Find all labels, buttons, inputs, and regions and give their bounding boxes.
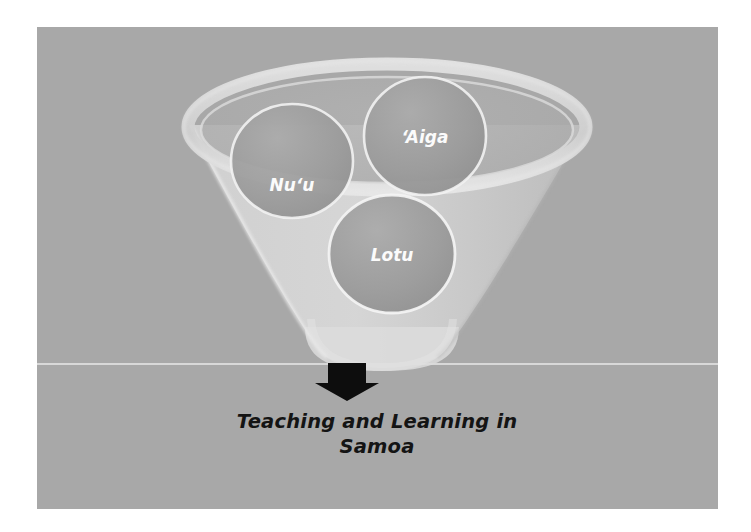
slide-plate: Nu‘u ‘Aiga Lotu [37, 27, 718, 509]
sphere-aiga[interactable]: ‘Aiga [364, 77, 486, 195]
sphere-nuu[interactable]: Nu‘u [231, 104, 353, 218]
caption-line-1: Teaching and Learning in [167, 410, 587, 435]
caption-line-2: Samoa [167, 435, 587, 460]
figure-canvas: Nu‘u ‘Aiga Lotu [0, 0, 751, 532]
sphere-lotu-label: Lotu [371, 245, 414, 265]
sphere-lotu[interactable]: Lotu [329, 195, 455, 313]
caption: Teaching and Learning in Samoa [167, 410, 587, 460]
sphere-aiga-label: ‘Aiga [402, 127, 449, 147]
sphere-nuu-label: Nu‘u [270, 175, 315, 195]
